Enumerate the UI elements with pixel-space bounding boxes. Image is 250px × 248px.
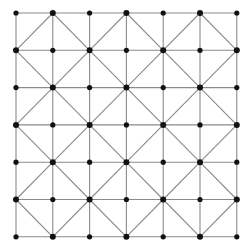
hub-node-dot (234, 47, 240, 53)
diagonal-line (126, 200, 163, 237)
hub-node-dot (13, 197, 19, 203)
diagonal-line (53, 200, 90, 237)
diagonal-line (16, 13, 53, 50)
lattice-diagram (0, 0, 250, 248)
node-dot (161, 234, 166, 239)
node-dot (197, 48, 202, 53)
diagonal-line (53, 13, 90, 50)
hub-node-dot (160, 47, 166, 53)
diagonal-line (90, 200, 127, 237)
node-dot (234, 234, 239, 239)
diagonal-line (53, 162, 90, 199)
diagonal-line (126, 13, 163, 50)
node-dot (87, 10, 92, 15)
node-dot (161, 160, 166, 165)
hub-node-dot (50, 234, 56, 240)
diagonal-line (16, 200, 53, 237)
diagonal-line (126, 88, 163, 125)
hub-node-dot (123, 159, 129, 165)
diagonal-line (200, 125, 237, 162)
diagonal-line (90, 13, 127, 50)
hub-node-dot (13, 122, 19, 128)
hub-node-dot (50, 10, 56, 16)
diagonal-line (163, 88, 200, 125)
node-dot (197, 197, 202, 202)
diagonal-line (53, 125, 90, 162)
node-dot (13, 85, 18, 90)
diagonal-line (200, 162, 237, 199)
node-dot (124, 122, 129, 127)
diagonal-line (16, 162, 53, 199)
diagonal-line (163, 50, 200, 87)
node-dot (124, 48, 129, 53)
diagonal-line (163, 125, 200, 162)
diagonal-line (200, 50, 237, 87)
diagonal-line (163, 13, 200, 50)
diagonal-line (200, 13, 237, 50)
hub-node-dot (123, 234, 129, 240)
diagonal-line (16, 88, 53, 125)
diagonal-line (16, 50, 53, 87)
diagonal-line (90, 88, 127, 125)
diagonal-line (53, 50, 90, 87)
hub-node-dot (197, 234, 203, 240)
hub-node-dot (197, 10, 203, 16)
diagonal-line (200, 88, 237, 125)
hub-node-dot (123, 85, 129, 91)
node-dot (13, 234, 18, 239)
hub-node-dot (197, 159, 203, 165)
node-dot (124, 197, 129, 202)
node-dot (161, 85, 166, 90)
diagonal-line (200, 200, 237, 237)
hub-node-dot (234, 122, 240, 128)
hub-node-dot (50, 85, 56, 91)
hub-node-dot (160, 197, 166, 203)
diagonal-line (126, 50, 163, 87)
hub-node-dot (13, 47, 19, 53)
node-dot (13, 160, 18, 165)
node-dot (50, 197, 55, 202)
hub-node-dot (87, 47, 93, 53)
diagonal-line (163, 162, 200, 199)
node-dot (87, 85, 92, 90)
node-dot (50, 48, 55, 53)
hub-node-dot (234, 197, 240, 203)
node-dot (161, 10, 166, 15)
diagonal-line (90, 162, 127, 199)
diagonal-line (126, 125, 163, 162)
hub-node-dot (197, 85, 203, 91)
hub-node-dot (160, 122, 166, 128)
node-dot (234, 85, 239, 90)
node-dot (234, 10, 239, 15)
hub-node-dot (87, 122, 93, 128)
diagonal-line (163, 200, 200, 237)
diagonal-line (126, 162, 163, 199)
hub-node-dot (87, 197, 93, 203)
diagonal-line (90, 125, 127, 162)
diagonal-line (53, 88, 90, 125)
diagonal-line (90, 50, 127, 87)
node-dot (87, 160, 92, 165)
node-dot (87, 234, 92, 239)
node-dot (50, 122, 55, 127)
hub-node-dot (50, 159, 56, 165)
diagonal-line (16, 125, 53, 162)
node-dot (197, 122, 202, 127)
node-dot (234, 160, 239, 165)
hub-node-dot (123, 10, 129, 16)
node-dot (13, 10, 18, 15)
